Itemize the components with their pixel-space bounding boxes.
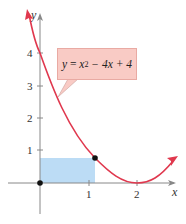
callout-pointer: [58, 79, 78, 97]
x-tick-label-2: 2: [134, 188, 140, 200]
eq-rest: − 4x + 4: [88, 58, 132, 70]
x-tick-label-1: 1: [86, 188, 92, 200]
chart-canvas: 1 2 x 1 2 3 4 y: [0, 0, 186, 224]
eq-equals: =: [67, 58, 79, 70]
y-axis-label: y: [30, 8, 37, 22]
y-tick-label-3: 3: [27, 80, 33, 92]
equation-label: y = x2 − 4x + 4: [57, 48, 137, 80]
x-axis-label: x: [171, 185, 178, 199]
y-tick-label-4: 4: [27, 47, 33, 59]
origin-point: [37, 180, 43, 186]
y-tick-label-1: 1: [27, 144, 33, 156]
curve-point: [92, 155, 98, 161]
curve-arrow-right-icon: [167, 156, 178, 166]
parabola-curve: [29, 14, 173, 183]
shaded-rectangle: [40, 158, 95, 183]
y-tick-label-2: 2: [27, 112, 33, 124]
